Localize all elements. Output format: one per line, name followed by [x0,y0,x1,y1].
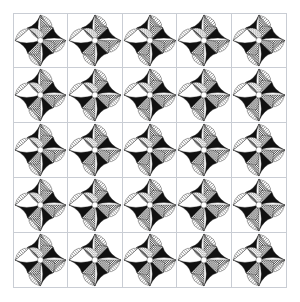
tile-motif [123,233,177,287]
tile-motif [123,68,177,122]
artboard: Tessellated Quilt Block Pattern four-poi… [0,0,300,302]
pattern-tile [68,178,123,233]
tile-motif [232,68,286,122]
pattern-tile [13,123,68,178]
pattern-tile [177,233,232,288]
tile-motif [177,178,231,232]
tile-motif [177,68,231,122]
pattern-tile [232,123,287,178]
pattern-tile [177,178,232,233]
tile-motif [177,14,231,67]
pattern-tile [177,13,232,68]
pattern-tile [68,13,123,68]
tile-motif [177,233,231,287]
tile-motif [177,123,231,177]
artwork-title: Tessellated Quilt Block Pattern [0,0,1,1]
tile-motif [68,233,122,287]
tile-motif-name: four-point-star-pinwheel [0,0,1,1]
pattern-tile [232,13,287,68]
pattern-tile [68,233,123,288]
pattern-frame [13,13,287,288]
tile-motif [232,178,286,232]
tile-motif [68,123,122,177]
tile-motif [14,233,67,287]
pattern-tile [123,178,178,233]
pattern-tile [68,68,123,123]
tile-motif [68,14,122,67]
pattern-tile [13,13,68,68]
pattern-tile [123,233,178,288]
tile-motif [123,123,177,177]
pattern-tile [232,178,287,233]
pattern-tile [177,68,232,123]
tile-motif [232,233,286,287]
pattern-tile [232,233,287,288]
tile-motif [123,178,177,232]
tile-motif [232,123,286,177]
pattern-tile [13,233,68,288]
pattern-tile [123,68,178,123]
pattern-tile [123,13,178,68]
tile-motif [68,68,122,122]
tile-motif [14,68,67,122]
tile-motif [14,123,67,177]
pattern-tile [68,123,123,178]
tile-motif [14,14,67,67]
pattern-tile [13,68,68,123]
pattern-tile [13,178,68,233]
tile-motif [232,14,286,67]
pattern-tile [232,68,287,123]
pattern-tile [177,123,232,178]
tile-motif [68,178,122,232]
pattern-tile [123,123,178,178]
tile-motif [14,178,67,232]
tile-motif [123,14,177,67]
tile-grid [13,13,287,288]
